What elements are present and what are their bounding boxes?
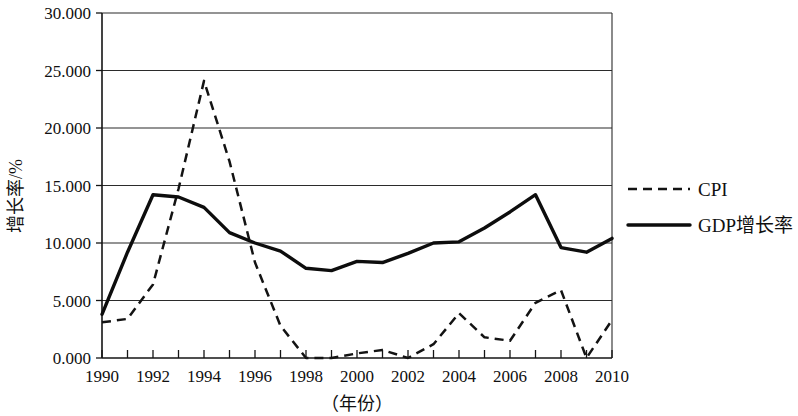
x-tick-label: 2000 [340,367,374,386]
x-tick-label: 1994 [187,367,222,386]
x-tick-label: 2006 [493,367,527,386]
x-tick-label: 2004 [442,367,477,386]
x-axis-title: （年份） [321,394,393,414]
x-tick-label: 1992 [136,367,170,386]
legend-item-label: GDP增长率 [698,215,793,236]
x-tick-label: 1990 [85,367,119,386]
legend-item-label: CPI [698,179,728,200]
y-tick-label: 20.000 [44,119,91,138]
x-tick-label: 2008 [544,367,578,386]
y-tick-label: 10.000 [44,234,91,253]
chart-background [0,0,798,416]
growth-rate-cpi-line-chart: 0.0005.00010.00015.00020.00025.00030.000… [0,0,798,416]
y-tick-label: 5.000 [53,292,91,311]
x-tick-labels-group: 1990199219941996199820002002200420062008… [85,367,629,386]
x-tick-label: 2010 [595,367,629,386]
x-tick-label: 1996 [238,367,272,386]
y-tick-label: 15.000 [44,177,91,196]
chart-page: 0.0005.00010.00015.00020.00025.00030.000… [0,0,798,416]
y-axis-title: 增长率/% [6,159,26,233]
x-tick-label: 2002 [391,367,425,386]
y-tick-label: 30.000 [44,4,91,23]
x-tick-label: 1998 [289,367,323,386]
y-tick-label: 0.000 [53,349,91,368]
y-tick-label: 25.000 [44,62,91,81]
